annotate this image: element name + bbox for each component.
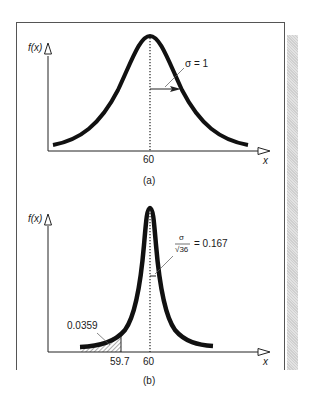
panel-b-x-label: x <box>263 356 268 367</box>
panel-a-tick-60: 60 <box>143 154 154 165</box>
panel-a-caption: (a) <box>143 175 155 186</box>
panel-a-y-axis-arrow-icon <box>45 43 52 54</box>
panel-b-caption: (b) <box>143 375 155 386</box>
panel-b-sigma-numerator: σ <box>179 233 184 242</box>
panel-b-normal-curve <box>80 208 213 347</box>
panel-b-tick-59-7: 59.7 <box>110 356 129 367</box>
panel-a-sigma-label: σ = 1 <box>185 58 208 69</box>
panel-b-sigma-denominator: √36 <box>175 245 188 254</box>
panel-a-x-axis-arrow-icon <box>258 148 270 155</box>
panel-a-y-label: f(x) <box>28 42 42 53</box>
figure-svg <box>0 0 310 400</box>
panel-b-sigma-value: = 0.167 <box>194 238 228 249</box>
panel-b-tick-60: 60 <box>143 356 154 367</box>
panel-a-x-label: x <box>263 155 268 166</box>
panel-b-y-label: f(x) <box>28 213 42 224</box>
panel-b-x-axis-arrow-icon <box>258 349 270 356</box>
panel-b-y-axis-arrow-icon <box>45 214 52 225</box>
panel-a-plot <box>45 36 271 155</box>
panel-b-plot <box>45 208 271 356</box>
panel-b-area-label: 0.0359 <box>67 320 98 331</box>
